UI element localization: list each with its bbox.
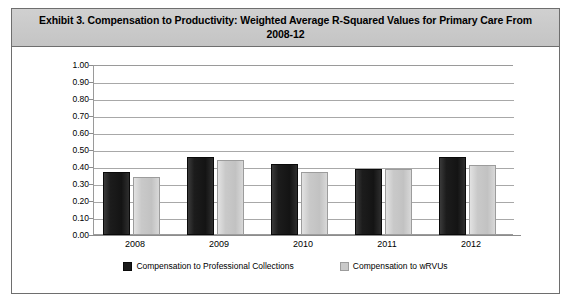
y-axis-tick-label: 0.90 <box>55 78 89 87</box>
y-axis-tick-mark <box>89 201 93 202</box>
y-axis-tick-mark <box>89 150 93 151</box>
y-axis-tick-label: 0.70 <box>55 112 89 121</box>
bar <box>355 169 382 235</box>
y-axis-tick-label: 0.00 <box>55 231 89 240</box>
x-axis-tick-label: 2010 <box>261 239 345 249</box>
y-axis-tick-mark <box>89 235 93 236</box>
bar-group <box>429 65 513 235</box>
legend-swatch-icon <box>340 262 349 271</box>
exhibit-figure: Exhibit 3. Compensation to Productivity:… <box>11 8 560 294</box>
y-axis-tick-mark <box>89 167 93 168</box>
chart-legend: Compensation to Professional Collections… <box>12 261 559 271</box>
figure-title: Exhibit 3. Compensation to Productivity:… <box>12 14 559 41</box>
y-axis-tick-mark <box>89 133 93 134</box>
y-axis-tick-label: 0.10 <box>55 214 89 223</box>
bar-group <box>177 65 261 235</box>
x-axis-tick-label: 2008 <box>93 239 177 249</box>
y-axis-tick-mark <box>89 65 93 66</box>
x-axis-tick-label: 2012 <box>429 239 513 249</box>
bar <box>217 160 244 235</box>
y-axis-tick-mark <box>89 218 93 219</box>
y-axis-tick-mark <box>89 116 93 117</box>
bar-group <box>345 65 429 235</box>
x-axis-tick-label: 2011 <box>345 239 429 249</box>
y-axis-tick-label: 0.30 <box>55 180 89 189</box>
bar <box>301 172 328 235</box>
bar <box>187 157 214 235</box>
bar-group <box>93 65 177 235</box>
y-axis-tick-label: 0.50 <box>55 146 89 155</box>
y-axis-tick-label: 0.60 <box>55 129 89 138</box>
bar <box>133 177 160 235</box>
bar-group <box>261 65 345 235</box>
y-axis-tick-label: 0.80 <box>55 95 89 104</box>
y-axis-tick-label: 0.40 <box>55 163 89 172</box>
x-axis-tick-label: 2009 <box>177 239 261 249</box>
figure-title-band: Exhibit 3. Compensation to Productivity:… <box>12 9 559 47</box>
bar <box>385 169 412 235</box>
bar <box>469 165 496 235</box>
legend-swatch-icon <box>123 262 132 271</box>
bar <box>439 157 466 235</box>
x-axis-line <box>93 235 521 236</box>
y-axis-tick-label: 0.20 <box>55 197 89 206</box>
y-axis-tick-mark <box>89 82 93 83</box>
bar <box>271 164 298 235</box>
y-axis-tick-label: 1.00 <box>55 61 89 70</box>
y-axis-labels: 1.000.900.800.700.600.500.400.300.200.10… <box>51 9 89 295</box>
bar <box>103 172 130 235</box>
legend-item: Compensation to wRVUs <box>340 261 448 271</box>
legend-item-label: Compensation to Professional Collections <box>136 261 293 271</box>
legend-item: Compensation to Professional Collections <box>123 261 293 271</box>
y-axis-tick-mark <box>89 184 93 185</box>
y-axis-tick-mark <box>89 99 93 100</box>
legend-item-label: Compensation to wRVUs <box>353 261 448 271</box>
